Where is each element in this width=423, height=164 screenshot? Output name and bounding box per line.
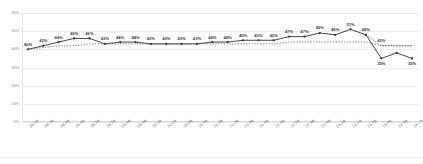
data-point-marker (119, 41, 121, 43)
data-point-marker (242, 39, 244, 41)
data-point-label: 47% (300, 29, 308, 34)
data-point-label: 43% (193, 36, 201, 41)
series-line-forecast-lower (366, 35, 412, 59)
data-point-label: 45% (270, 33, 278, 38)
data-point-label: 46% (85, 31, 93, 36)
data-point-marker (42, 45, 44, 47)
data-point-label: 43% (147, 36, 155, 41)
series-lines (22, 13, 418, 122)
data-point-label: 47% (285, 29, 293, 34)
data-point-marker (380, 57, 382, 59)
data-point-label: 44% (224, 35, 232, 40)
data-point-marker (303, 36, 305, 38)
data-point-marker (349, 28, 351, 30)
data-point-label: 45% (239, 33, 247, 38)
data-point-marker (365, 34, 367, 36)
data-point-label: 51% (346, 22, 354, 27)
data-point-label: 48% (331, 27, 339, 32)
data-point-marker (396, 52, 398, 54)
y-axis-tick-label: 50% (12, 29, 20, 33)
y-axis-tick-label: 30% (12, 66, 20, 70)
data-point-label: 48% (362, 27, 370, 32)
data-point-label: 43% (101, 36, 109, 41)
data-point-marker (134, 41, 136, 43)
data-point-label: 35% (377, 61, 385, 66)
footer-divider (0, 157, 423, 158)
data-point-label: 49% (316, 25, 324, 30)
data-point-label: 45% (254, 33, 262, 38)
series-line-trend-baseline (28, 42, 412, 49)
data-point-marker (319, 32, 321, 34)
data-point-marker (288, 36, 290, 38)
y-axis-tick-label: 0% (14, 120, 19, 124)
data-point-label: 44% (116, 35, 124, 40)
data-point-label: 44% (131, 35, 139, 40)
data-point-marker (73, 37, 75, 39)
data-point-label: 42% (39, 38, 47, 43)
data-point-marker (211, 41, 213, 43)
y-axis-tick-label: 60% (12, 11, 20, 15)
data-point-label: 44% (208, 35, 216, 40)
data-point-marker (257, 39, 259, 41)
y-axis-tick-label: 10% (12, 102, 20, 106)
data-point-label: 43% (177, 36, 185, 41)
data-point-label: 43% (162, 36, 170, 41)
chart-container: 0%10%20%30%40%50%60% 40%42%44%46%46%43%4… (0, 0, 423, 164)
data-point-label: 35% (408, 61, 416, 66)
data-point-marker (273, 39, 275, 41)
data-point-marker (411, 57, 413, 59)
data-point-label: 46% (70, 31, 78, 36)
y-axis-tick-label: 40% (12, 47, 20, 51)
data-point-marker (334, 34, 336, 36)
data-point-label: 42% (377, 38, 385, 43)
data-point-label: 44% (55, 35, 63, 40)
data-point-marker (88, 37, 90, 39)
series-line-forecast-upper (366, 35, 412, 46)
data-point-marker (58, 41, 60, 43)
data-point-label: 40% (24, 42, 32, 47)
data-point-marker (227, 41, 229, 43)
plot-area: 0%10%20%30%40%50%60% 40%42%44%46%46%43%4… (22, 13, 418, 122)
y-axis-tick-label: 20% (12, 84, 20, 88)
